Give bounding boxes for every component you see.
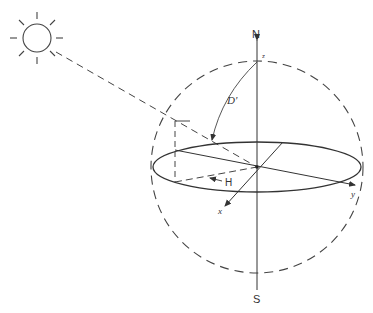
celestial-sphere-diagram: N S z D' H x y	[0, 0, 373, 313]
label-south: S	[253, 293, 260, 305]
sun-ray-line	[56, 52, 257, 167]
origin-point	[255, 165, 259, 169]
sun-icon	[10, 12, 63, 64]
label-north: N	[252, 28, 260, 40]
label-y-axis: y	[350, 189, 355, 199]
label-zenith: z	[262, 53, 265, 59]
label-x-axis: x	[217, 206, 222, 216]
label-zenith-angle: D'	[226, 94, 238, 106]
label-hour-angle: H	[225, 177, 232, 188]
x-axis	[225, 142, 283, 206]
hour-angle-arrow	[210, 178, 222, 181]
y-axis	[175, 150, 355, 185]
